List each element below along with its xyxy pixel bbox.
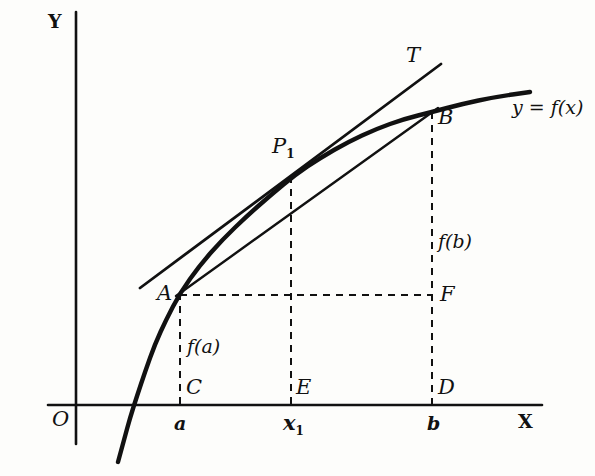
ordinate-label-fa: f(a) [187,337,220,356]
point-label-p1: P1 [272,136,295,160]
point-label-d: D [438,377,455,398]
tick-label-x1-subscript: 1 [296,424,304,438]
secant-line-ab [176,108,438,296]
figure-container: Y X O A B C D E F P1 T y = f(x) f(a) f(b… [0,0,595,476]
ordinate-label-fb: f(b) [438,232,472,251]
point-label-b: B [438,107,453,128]
y-axis-label: Y [48,12,62,31]
point-label-a: A [157,283,172,304]
point-label-f: F [440,284,455,305]
point-label-p1-letter: P [272,134,286,158]
x-axis-label: X [518,412,533,431]
curve-equation-label: y = f(x) [512,98,583,117]
tick-label-x1-letter: x [283,410,296,435]
tick-label-a: a [174,414,186,433]
tick-label-x1: x1 [283,412,304,437]
tick-label-b: b [427,414,440,433]
point-label-e: E [296,377,311,398]
point-label-p1-subscript: 1 [286,147,294,161]
origin-label: O [52,409,69,430]
figure-drawing [0,0,595,476]
tangent-label-t: T [406,45,420,66]
point-label-c: C [186,377,202,398]
function-curve [118,92,530,462]
